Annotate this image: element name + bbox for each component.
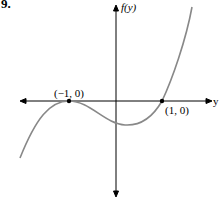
y-axis-label: f(y) <box>121 1 137 14</box>
x-axis-right-arrow <box>206 99 212 104</box>
x-axis-label: y <box>213 95 219 107</box>
point-pos1 <box>160 99 164 103</box>
function-curve <box>20 7 192 158</box>
y-axis-top-arrow <box>114 5 119 11</box>
cubic-graph: (−1, 0) (1, 0) y f(y) <box>0 0 221 198</box>
point-neg1-label: (−1, 0) <box>54 87 84 100</box>
point-pos1-label: (1, 0) <box>165 104 189 117</box>
point-neg1 <box>67 99 71 103</box>
x-axis-left-arrow <box>20 99 26 104</box>
y-axis-bottom-arrow <box>114 191 119 197</box>
